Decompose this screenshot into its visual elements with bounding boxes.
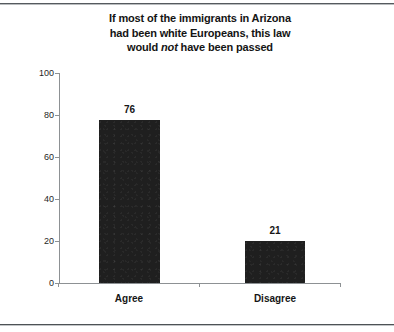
bar-agree[interactable] bbox=[99, 120, 160, 283]
bar-value-agree: 76 bbox=[99, 104, 160, 115]
y-tick-label-80: 80 bbox=[14, 111, 54, 120]
y-tick-mark-20 bbox=[55, 241, 60, 242]
bar-chart-plot-area: 100 80 60 40 20 0 76 21 Agree Disagree bbox=[0, 0, 394, 332]
scanned-page: If most of the immigrants in Arizona had… bbox=[0, 0, 394, 332]
y-tick-label-0: 0 bbox=[14, 279, 54, 288]
y-tick-mark-60 bbox=[55, 157, 60, 158]
x-tick-mark-right bbox=[340, 283, 341, 287]
page-bottom-rule-shadow bbox=[0, 325, 394, 326]
x-tick-mark-left bbox=[58, 283, 59, 287]
y-tick-mark-40 bbox=[55, 199, 60, 200]
y-tick-label-40: 40 bbox=[14, 195, 54, 204]
y-tick-mark-100 bbox=[55, 73, 60, 74]
bar-disagree[interactable] bbox=[245, 241, 305, 283]
y-tick-label-100: 100 bbox=[14, 69, 54, 78]
y-tick-label-60: 60 bbox=[14, 153, 54, 162]
y-tick-mark-80 bbox=[55, 115, 60, 116]
bar-value-disagree: 21 bbox=[245, 225, 305, 236]
x-tick-mark-center bbox=[199, 283, 200, 287]
x-category-label-disagree: Disagree bbox=[220, 293, 330, 304]
x-category-label-agree: Agree bbox=[74, 293, 184, 304]
y-tick-label-20: 20 bbox=[14, 237, 54, 246]
y-axis-line bbox=[59, 73, 60, 284]
